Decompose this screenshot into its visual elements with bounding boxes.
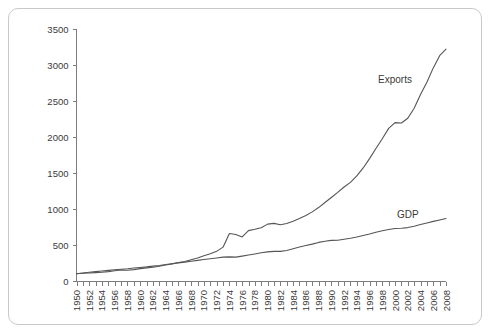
x-tick-label: 1980 [262,290,273,311]
x-tick-label: 1996 [364,290,375,311]
series-label-exports: Exports [378,74,412,85]
x-tick-label: 2002 [402,290,413,311]
y-axis-group: 0500100015002000250030003500 [47,24,76,287]
x-axis-group: 1950195219541956195819601962196419661968… [71,282,452,312]
x-tick-label: 1970 [198,290,209,311]
series-label-gdp: GDP [397,209,419,220]
x-tick-marks [78,282,447,286]
x-tick-label: 2008 [441,290,452,311]
x-tick-label: 1956 [109,290,120,311]
x-tick-label: 1962 [147,290,158,311]
x-tick-label: 1960 [135,290,146,311]
x-tick-label: 1954 [96,290,107,311]
x-tick-label: 1976 [237,290,248,311]
x-tick-label: 1982 [275,290,286,311]
x-tick-label: 1988 [313,290,324,311]
x-tick-label: 1990 [326,290,337,311]
y-tick-label: 2000 [47,132,68,143]
x-tick-label: 1978 [249,290,260,311]
line-chart: 0500100015002000250030003500 19501952195… [0,0,497,336]
x-tick-label: 1984 [288,290,299,311]
x-tick-label: 1964 [160,290,171,311]
y-tick-marks [73,30,77,282]
x-tick-label: 1966 [173,290,184,311]
x-tick-label: 1974 [224,290,235,311]
chart-screenshot: 0500100015002000250030003500 19501952195… [0,0,497,336]
x-tick-label: 2000 [390,290,401,311]
x-tick-labels: 1950195219541956195819601962196419661968… [71,290,452,311]
y-tick-label: 3500 [47,24,68,35]
x-tick-label: 2006 [428,290,439,311]
y-tick-label: 1500 [47,168,68,179]
x-tick-label: 1992 [339,290,350,311]
x-tick-label: 1958 [122,290,133,311]
x-tick-label: 1952 [84,290,95,311]
series-annotations: ExportsGDP [378,74,419,220]
y-tick-label: 3000 [47,60,68,71]
y-tick-label: 2500 [47,96,68,107]
x-tick-label: 1950 [71,290,82,311]
x-tick-label: 1972 [211,290,222,311]
y-tick-label: 1000 [47,204,68,215]
series-line-gdp [77,219,447,274]
y-tick-label: 500 [53,240,69,251]
x-tick-label: 2004 [415,290,426,311]
y-tick-labels: 0500100015002000250030003500 [47,24,68,287]
x-tick-label: 1968 [186,290,197,311]
x-tick-label: 1986 [300,290,311,311]
y-tick-label: 0 [63,276,68,287]
x-tick-label: 1994 [351,290,362,311]
x-tick-label: 1998 [377,290,388,311]
